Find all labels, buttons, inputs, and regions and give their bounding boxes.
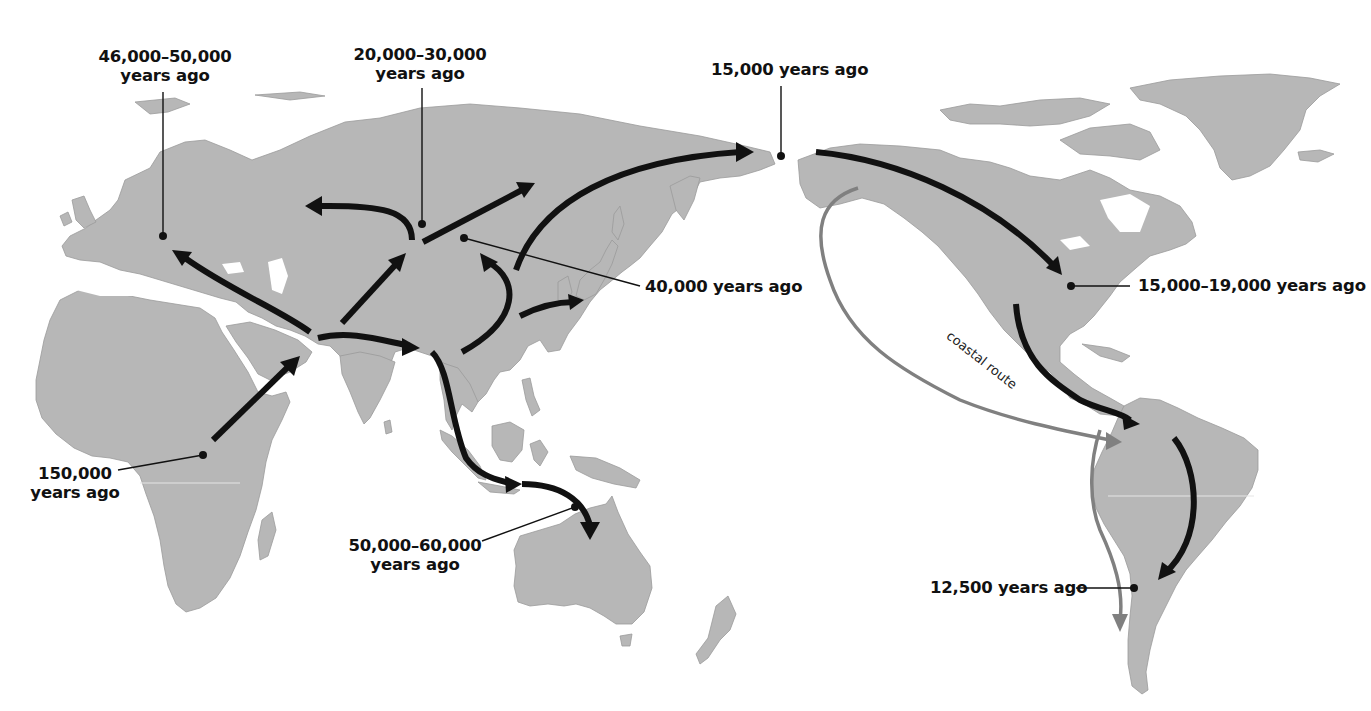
label-central-asia-line2: years ago — [350, 64, 490, 83]
label-east-asia-text: 40,000 years ago — [645, 277, 802, 296]
label-north-america: 15,000–19,000 years ago — [1138, 276, 1366, 295]
label-australia-line2: years ago — [345, 555, 485, 574]
marker-dot-africa — [199, 451, 207, 459]
label-central-asia: 20,000–30,000 years ago — [350, 45, 490, 83]
landmasses — [36, 74, 1340, 694]
label-europe-line2: years ago — [95, 66, 235, 85]
label-europe-line1: 46,000–50,000 — [95, 47, 235, 66]
label-beringia-text: 15,000 years ago — [711, 60, 868, 79]
label-australia: 50,000–60,000 years ago — [345, 536, 485, 574]
marker-dot-beringia — [777, 152, 785, 160]
marker-dot-central-asia — [418, 220, 426, 228]
marker-dot-east-asia — [460, 234, 468, 242]
marker-dot-south-america — [1130, 584, 1138, 592]
marker-dot-europe — [159, 232, 167, 240]
world-map — [0, 0, 1371, 711]
label-europe: 46,000–50,000 years ago — [95, 47, 235, 85]
label-africa-line1: 150,000 — [30, 464, 120, 483]
label-beringia: 15,000 years ago — [711, 60, 868, 79]
label-south-america-text: 12,500 years ago — [930, 578, 1087, 597]
label-north-america-text: 15,000–19,000 years ago — [1138, 276, 1366, 295]
marker-dot-australia — [571, 503, 579, 511]
marker-dot-north-america — [1067, 282, 1075, 290]
label-australia-line1: 50,000–60,000 — [345, 536, 485, 555]
label-africa: 150,000 years ago — [30, 464, 120, 502]
label-east-asia: 40,000 years ago — [645, 277, 802, 296]
label-africa-line2: years ago — [30, 483, 120, 502]
label-south-america: 12,500 years ago — [930, 578, 1087, 597]
label-central-asia-line1: 20,000–30,000 — [350, 45, 490, 64]
